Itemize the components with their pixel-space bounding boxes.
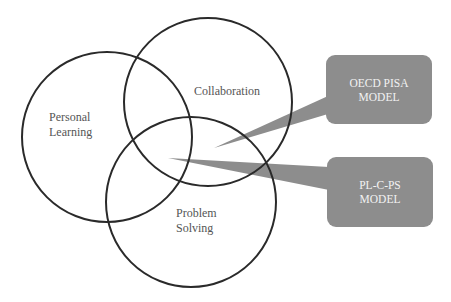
personal-learning-label-line-2: Learning	[49, 125, 92, 140]
collaboration-label: Collaboration	[194, 84, 260, 99]
pl-c-ps-callout: PL-C-PS MODEL	[327, 157, 433, 227]
venn-diagram: Personal Learning Collaboration Problem …	[0, 0, 451, 302]
oecd-pisa-callout-line-2: MODEL	[349, 90, 408, 104]
problem-solving-label-line-1: Problem	[176, 206, 217, 221]
personal-learning-label-line-1: Personal	[49, 110, 92, 125]
pl-c-ps-callout-line-2: MODEL	[359, 192, 401, 206]
collaboration-label-line-1: Collaboration	[194, 84, 260, 99]
problem-solving-label-line-2: Solving	[176, 221, 217, 236]
diagram-canvas	[0, 0, 451, 302]
oecd-pisa-pointer	[214, 96, 328, 148]
pl-c-ps-callout-text: PL-C-PS MODEL	[359, 178, 401, 206]
personal-learning-label: Personal Learning	[49, 110, 92, 140]
oecd-pisa-callout-line-1: OECD PISA	[349, 76, 408, 90]
pl-c-ps-callout-line-1: PL-C-PS	[359, 178, 401, 192]
problem-solving-label: Problem Solving	[176, 206, 217, 236]
oecd-pisa-callout-text: OECD PISA MODEL	[349, 76, 408, 104]
oecd-pisa-callout: OECD PISA MODEL	[326, 55, 432, 124]
